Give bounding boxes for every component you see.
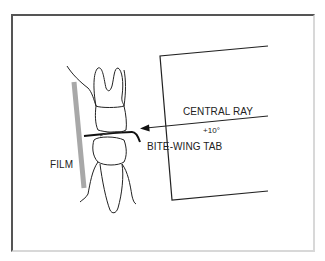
bitewing-diagram	[0, 0, 325, 261]
soft-tissue-lower-right	[122, 164, 136, 204]
maxillary-tooth-crown	[95, 106, 126, 132]
mandibular-tooth-crown	[93, 137, 126, 165]
bite-wing-tab-label: BITE-WING TAB	[147, 141, 222, 152]
film-strip	[74, 82, 84, 188]
mandibular-tooth-root	[100, 164, 123, 213]
angle-label: +10°	[203, 126, 220, 135]
xray-cone-outline	[160, 46, 268, 200]
central-ray-label: CENTRAL RAY	[183, 106, 253, 117]
maxillary-root-outer	[124, 70, 126, 106]
film-label: FILM	[50, 159, 73, 170]
soft-tissue-upper-line	[67, 66, 96, 106]
maxillary-tooth-roots	[94, 68, 124, 106]
